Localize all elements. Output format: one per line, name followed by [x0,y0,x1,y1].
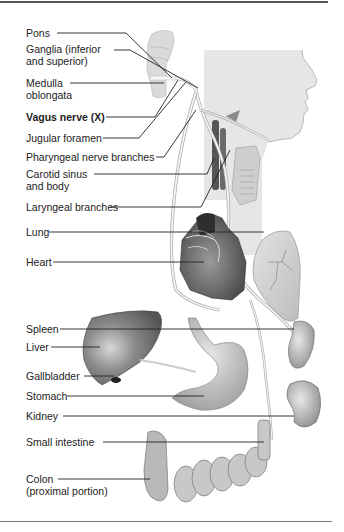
brainstem [147,30,176,97]
label-small-intestine: Small intestine [26,436,94,448]
lung [253,231,300,321]
label-ganglia-line1: Ganglia (inferior [26,43,101,55]
label-stomach: Stomach [26,390,67,402]
intestines [144,420,270,502]
label-medulla: Medulla oblongata [26,77,72,101]
label-pons: Pons [26,27,50,39]
label-heart: Heart [26,256,52,268]
label-vagus-nerve: Vagus nerve (X) [26,111,105,123]
label-colon-line2: (proximal portion) [26,485,108,497]
label-jugular-foramen: Jugular foramen [26,132,102,144]
label-gallbladder: Gallbladder [26,370,80,382]
label-laryngeal-branches: Laryngeal branches [26,201,118,213]
label-carotid-line2: and body [26,180,87,192]
label-carotid-line1: Carotid sinus [26,168,87,180]
label-colon: Colon (proximal portion) [26,473,108,497]
kidney [287,381,321,427]
label-medulla-line1: Medulla [26,77,72,89]
liver [83,311,196,385]
label-spleen: Spleen [26,323,59,335]
label-ganglia-line2: and superior) [26,55,101,67]
label-colon-line1: Colon [26,473,108,485]
label-ganglia: Ganglia (inferior and superior) [26,43,101,67]
label-lung: Lung [26,226,49,238]
label-pharyngeal-branches: Pharyngeal nerve branches [26,151,154,163]
label-liver: Liver [26,341,49,353]
label-medulla-line2: oblongata [26,89,72,101]
label-carotid-sinus: Carotid sinus and body [26,168,87,192]
label-kidney: Kidney [26,410,58,422]
